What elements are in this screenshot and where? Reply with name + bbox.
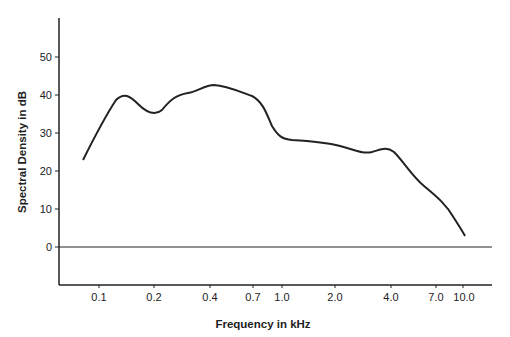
- y-tick-10: 10: [40, 203, 52, 215]
- y-axis: 50 40 30 20 10 0: [40, 18, 59, 285]
- x-tick-0.1: 0.1: [91, 291, 106, 303]
- x-tick-7.0: 7.0: [428, 291, 443, 303]
- x-tick-0.4: 0.4: [202, 291, 217, 303]
- x-axis-label: Frequency in kHz: [215, 318, 310, 330]
- spectral-curve: [83, 85, 465, 236]
- y-tick-0: 0: [46, 241, 52, 253]
- x-tick-2.0: 2.0: [327, 291, 342, 303]
- x-tick-4.0: 4.0: [383, 291, 398, 303]
- y-tick-30: 30: [40, 127, 52, 139]
- chart: 50 40 30 20 10 0 0.1 0.2 0.4 0.7 1.0 2.0…: [0, 0, 510, 337]
- x-tick-0.2: 0.2: [146, 291, 161, 303]
- y-axis-label: Spectral Density in dB: [16, 91, 28, 213]
- x-tick-0.7: 0.7: [245, 291, 260, 303]
- x-tick-1.0: 1.0: [274, 291, 289, 303]
- x-axis: 0.1 0.2 0.4 0.7 1.0 2.0 4.0 7.0 10.0: [59, 285, 492, 303]
- x-tick-10.0: 10.0: [453, 291, 474, 303]
- y-tick-50: 50: [40, 51, 52, 63]
- y-tick-40: 40: [40, 89, 52, 101]
- y-tick-20: 20: [40, 165, 52, 177]
